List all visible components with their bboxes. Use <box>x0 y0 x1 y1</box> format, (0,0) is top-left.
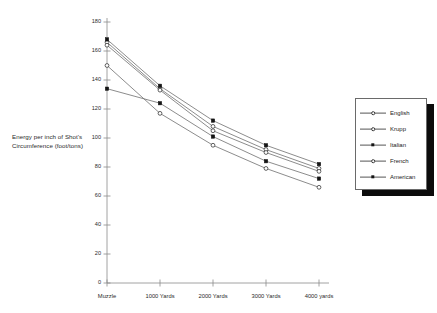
open-circle-icon <box>371 159 375 163</box>
legend-key-italian <box>360 140 386 150</box>
open-circle-icon <box>371 111 375 115</box>
y-tick-label: 0 <box>81 279 101 285</box>
y-tick-label: 140 <box>81 76 101 82</box>
x-tick-label: Muzzle <box>98 293 116 299</box>
legend-label: Italian <box>386 142 406 148</box>
chart-figure: Energy per inch of Shot's Circumference … <box>0 0 437 313</box>
y-tick-label: 160 <box>81 47 101 53</box>
chart-legend: English Krupp Italian French American <box>355 98 427 190</box>
legend-key-french <box>360 156 386 166</box>
legend-item[interactable]: English <box>360 105 422 121</box>
legend-key-krupp <box>360 124 386 134</box>
y-tick-label: 40 <box>81 221 101 227</box>
y-tick-label: 20 <box>81 250 101 256</box>
series-krupp <box>105 43 321 173</box>
x-tick-label: 4000 yards <box>305 293 334 299</box>
legend-key-american <box>360 172 386 182</box>
filled-square-icon <box>371 143 374 146</box>
y-tick-label: 80 <box>81 163 101 169</box>
legend-label: English <box>386 110 410 116</box>
x-tick-label: 1000 Yards <box>145 293 174 299</box>
legend-item[interactable]: American <box>360 169 422 185</box>
x-tick-label: 3000 Yards <box>251 293 280 299</box>
legend-item[interactable]: Italian <box>360 137 422 153</box>
legend-key-english <box>360 108 386 118</box>
series-american <box>105 87 320 180</box>
legend-label: Krupp <box>386 126 406 132</box>
legend-item[interactable]: Krupp <box>360 121 422 137</box>
legend-label: French <box>386 158 409 164</box>
y-tick-label: 60 <box>81 192 101 198</box>
y-tick-label: 100 <box>81 134 101 140</box>
y-tick-label: 180 <box>81 18 101 24</box>
series-english <box>105 40 321 170</box>
x-tick-label: 2000 Yards <box>198 293 227 299</box>
legend-label: American <box>386 174 415 180</box>
filled-square-icon <box>371 175 374 178</box>
open-circle-icon <box>371 127 375 131</box>
legend-item[interactable]: French <box>360 153 422 169</box>
y-tick-label: 120 <box>81 105 101 111</box>
